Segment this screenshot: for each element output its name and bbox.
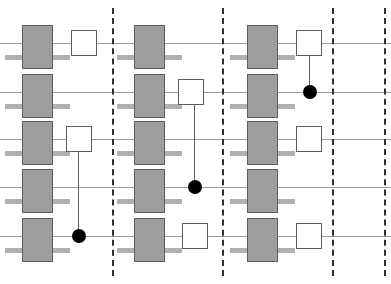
control-line-b1-1: [78, 139, 79, 236]
gate-lead-left-b2-w1: [117, 55, 134, 60]
white-gate-b2-w5[interactable]: [182, 223, 208, 249]
gray-gate-b3-w4[interactable]: [247, 169, 278, 213]
white-gate-b3-w5[interactable]: [296, 223, 322, 249]
gate-lead-right-b1-w2: [53, 104, 70, 109]
quantum-circuit-diagram: [0, 0, 391, 284]
control-line-b2-1: [194, 92, 195, 187]
gate-lead-left-b3-w3: [230, 151, 247, 156]
white-gate-b3-w1[interactable]: [296, 30, 322, 56]
barrier-line-4: [384, 8, 386, 276]
gray-gate-b3-w3[interactable]: [247, 121, 278, 165]
gate-lead-left-b2-w5: [117, 248, 134, 253]
barrier-line-3: [332, 8, 334, 276]
gate-lead-right-b2-w4: [165, 199, 182, 204]
white-gate-b3-w3[interactable]: [296, 126, 322, 152]
gate-lead-right-b3-w5: [278, 248, 295, 253]
gray-gate-b2-w4[interactable]: [134, 169, 165, 213]
gray-gate-b3-w1[interactable]: [247, 25, 278, 69]
gate-lead-left-b1-w4: [5, 199, 22, 204]
gray-gate-b2-w5[interactable]: [134, 218, 165, 262]
gate-lead-right-b3-w2: [278, 104, 295, 109]
gate-lead-left-b1-w1: [5, 55, 22, 60]
gray-gate-b1-w4[interactable]: [22, 169, 53, 213]
white-gate-b2-w2[interactable]: [178, 79, 204, 105]
gate-lead-left-b1-w5: [5, 248, 22, 253]
gate-lead-right-b1-w5: [53, 248, 70, 253]
barrier-line-1: [112, 8, 114, 276]
control-dot-b3-1: [303, 85, 317, 99]
gate-lead-right-b1-w1: [53, 55, 70, 60]
barrier-line-2: [222, 8, 224, 276]
gate-lead-left-b2-w3: [117, 151, 134, 156]
gate-lead-right-b3-w1: [278, 55, 295, 60]
white-gate-b1-w1[interactable]: [71, 30, 97, 56]
gray-gate-b1-w2[interactable]: [22, 74, 53, 118]
gray-gate-b3-w5[interactable]: [247, 218, 278, 262]
gate-lead-left-b2-w4: [117, 199, 134, 204]
gray-gate-b2-w3[interactable]: [134, 121, 165, 165]
gate-lead-right-b1-w4: [53, 199, 70, 204]
gray-gate-b2-w1[interactable]: [134, 25, 165, 69]
gate-lead-right-b2-w1: [165, 55, 182, 60]
gate-lead-left-b3-w4: [230, 199, 247, 204]
gate-lead-right-b3-w3: [278, 151, 295, 156]
gate-lead-right-b2-w3: [165, 151, 182, 156]
gate-lead-right-b2-w5: [165, 248, 182, 253]
gate-lead-left-b3-w5: [230, 248, 247, 253]
white-gate-b1-w3[interactable]: [66, 126, 92, 152]
gate-lead-left-b2-w2: [117, 104, 134, 109]
control-dot-b2-1: [188, 180, 202, 194]
gate-lead-left-b3-w1: [230, 55, 247, 60]
gate-lead-right-b3-w4: [278, 199, 295, 204]
control-dot-b1-1: [72, 229, 86, 243]
gate-lead-left-b1-w2: [5, 104, 22, 109]
gray-gate-b2-w2[interactable]: [134, 74, 165, 118]
gate-lead-left-b1-w3: [5, 151, 22, 156]
gate-lead-left-b3-w2: [230, 104, 247, 109]
gray-gate-b1-w5[interactable]: [22, 218, 53, 262]
gray-gate-b3-w2[interactable]: [247, 74, 278, 118]
gray-gate-b1-w3[interactable]: [22, 121, 53, 165]
gray-gate-b1-w1[interactable]: [22, 25, 53, 69]
